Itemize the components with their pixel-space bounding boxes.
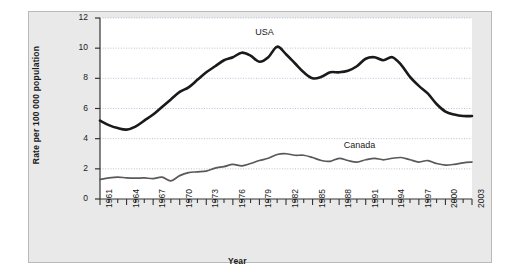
plot-background bbox=[100, 18, 472, 199]
x-tick-label: 1988 bbox=[343, 189, 353, 208]
x-axis-ticks bbox=[100, 199, 472, 205]
x-tick-label: 1994 bbox=[396, 189, 406, 208]
y-tick-label: 10 bbox=[66, 42, 88, 52]
y-tick-label: 0 bbox=[66, 193, 88, 203]
x-tick-label: 2000 bbox=[449, 189, 459, 208]
x-tick-label: 1967 bbox=[157, 189, 167, 208]
x-tick-label: 1985 bbox=[317, 189, 327, 208]
x-tick-label: 1970 bbox=[184, 189, 194, 208]
y-tick-label: 6 bbox=[66, 103, 88, 113]
y-tick-label: 2 bbox=[66, 163, 88, 173]
y-tick-label: 8 bbox=[66, 72, 88, 82]
chart-figure: Rate per 100 000 population Year 0246810… bbox=[0, 0, 521, 277]
x-tick-label: 1961 bbox=[104, 189, 114, 208]
x-tick-label: 1997 bbox=[423, 189, 433, 208]
series-label-canada: Canada bbox=[344, 140, 376, 150]
x-tick-label: 1979 bbox=[263, 189, 273, 208]
series-label-usa: USA bbox=[255, 27, 274, 37]
x-tick-label: 1973 bbox=[210, 189, 220, 208]
y-tick-label: 4 bbox=[66, 133, 88, 143]
x-tick-label: 1991 bbox=[370, 189, 380, 208]
y-axis-ticks bbox=[95, 18, 100, 199]
y-axis-title: Rate per 100 000 population bbox=[31, 25, 41, 185]
y-tick-label: 12 bbox=[66, 12, 88, 22]
x-tick-label: 1982 bbox=[290, 189, 300, 208]
x-tick-label: 2003 bbox=[476, 189, 486, 208]
x-axis-title: Year bbox=[228, 256, 247, 266]
x-tick-label: 1964 bbox=[131, 189, 141, 208]
x-tick-label: 1976 bbox=[237, 189, 247, 208]
